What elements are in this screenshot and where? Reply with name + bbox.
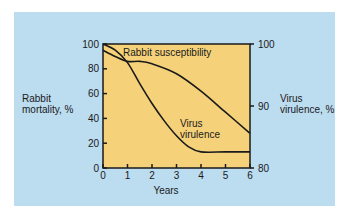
right-y-axis-title-line1: Virus xyxy=(280,93,303,104)
x-tick-label: 1 xyxy=(125,170,131,181)
x-tick-label: 6 xyxy=(247,170,253,181)
left-y-tick-label: 0 xyxy=(93,163,99,174)
x-tick-label: 5 xyxy=(223,170,229,181)
line-chart: 0123456 020406080100 8090100 Rabbit susc… xyxy=(0,0,348,217)
plot-area xyxy=(103,44,250,168)
x-tick-label: 0 xyxy=(100,170,106,181)
x-axis-title: Years xyxy=(153,185,178,196)
x-tick-label: 4 xyxy=(198,170,204,181)
annotation-rabbit-susceptibility: Rabbit susceptibility xyxy=(123,47,211,58)
annotation-virus-virulence-line1: Virus xyxy=(180,118,203,129)
left-y-axis-title-line2: mortality, % xyxy=(22,104,74,115)
right-y-tick-label: 100 xyxy=(258,39,275,50)
x-tick-label: 3 xyxy=(174,170,180,181)
left-y-axis-title-line1: Rabbit xyxy=(22,93,51,104)
left-y-tick-label: 40 xyxy=(88,113,100,124)
right-y-axis-title-line2: virulence, % xyxy=(280,104,335,115)
left-y-tick-label: 20 xyxy=(88,138,100,149)
right-y-axis: 8090100 xyxy=(250,39,275,174)
right-y-tick-label: 80 xyxy=(258,163,270,174)
left-y-tick-label: 60 xyxy=(88,88,100,99)
right-y-tick-label: 90 xyxy=(258,101,270,112)
left-y-tick-label: 80 xyxy=(88,63,100,74)
left-y-tick-label: 100 xyxy=(82,39,99,50)
annotation-virus-virulence-line2: virulence xyxy=(180,129,220,140)
x-tick-label: 2 xyxy=(149,170,155,181)
